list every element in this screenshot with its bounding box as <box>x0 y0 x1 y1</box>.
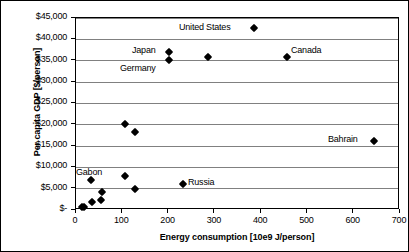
x-tick-label: 100 <box>101 215 141 225</box>
point-annotation: Canada <box>291 45 321 55</box>
point-annotation: Russia <box>188 177 214 187</box>
y-tick-mark <box>71 123 75 124</box>
y-tick-label: $35,000 <box>1 54 67 64</box>
y-tick-label: $45,000 <box>1 11 67 21</box>
x-tick-mark <box>75 209 76 213</box>
x-tick-mark <box>352 209 353 213</box>
data-point-marker <box>96 195 104 203</box>
y-tick-label: $25,000 <box>1 96 67 106</box>
data-point-marker <box>121 120 129 128</box>
y-tick-mark <box>71 17 75 18</box>
point-annotation: Japan <box>132 45 156 55</box>
data-point-marker <box>370 137 378 145</box>
y-tick-mark <box>71 187 75 188</box>
x-tick-mark <box>167 209 168 213</box>
y-tick-label: $30,000 <box>1 75 67 85</box>
y-gridline <box>76 188 398 189</box>
y-tick-mark <box>71 59 75 60</box>
data-point-marker <box>87 198 95 206</box>
y-tick-mark <box>71 166 75 167</box>
point-annotation: Germany <box>120 63 156 73</box>
chart-figure: Per capita GDP [$/person] Energy consump… <box>0 0 409 252</box>
y-tick-label: $40,000 <box>1 32 67 42</box>
y-tick-mark <box>71 145 75 146</box>
y-tick-label: $5,000 <box>1 182 67 192</box>
x-tick-mark <box>306 209 307 213</box>
point-annotation: Bahrain <box>328 134 358 144</box>
x-tick-label: 400 <box>240 215 280 225</box>
y-tick-mark <box>71 38 75 39</box>
x-tick-mark <box>260 209 261 213</box>
data-point-marker <box>165 56 173 64</box>
y-tick-label: $- <box>1 203 67 213</box>
x-tick-mark <box>121 209 122 213</box>
data-point-marker <box>250 24 258 32</box>
x-tick-label: 300 <box>194 215 234 225</box>
y-tick-mark <box>71 102 75 103</box>
y-gridline <box>76 39 398 40</box>
data-point-marker <box>121 172 129 180</box>
y-gridline <box>76 82 398 83</box>
y-gridline <box>76 60 398 61</box>
y-tick-mark <box>71 81 75 82</box>
x-tick-label: 500 <box>286 215 326 225</box>
data-point-marker <box>179 180 187 188</box>
x-axis-title: Energy consumption [10e9 J/person] <box>75 232 399 242</box>
x-tick-label: 200 <box>148 215 188 225</box>
x-tick-label: 0 <box>55 215 95 225</box>
y-gridline <box>76 167 398 168</box>
point-annotation: United States <box>179 22 230 32</box>
x-tick-mark <box>213 209 214 213</box>
y-gridline <box>76 18 398 19</box>
y-gridline <box>76 146 398 147</box>
x-tick-label: 700 <box>379 215 409 225</box>
x-tick-mark <box>399 209 400 213</box>
data-point-marker <box>131 185 139 193</box>
y-gridline <box>76 103 398 104</box>
y-tick-label: $10,000 <box>1 160 67 170</box>
point-annotation: Gabon <box>76 167 102 177</box>
data-point-marker <box>131 128 139 136</box>
y-tick-label: $15,000 <box>1 139 67 149</box>
x-tick-label: 600 <box>333 215 373 225</box>
plot-area <box>75 17 399 209</box>
y-tick-label: $20,000 <box>1 118 67 128</box>
